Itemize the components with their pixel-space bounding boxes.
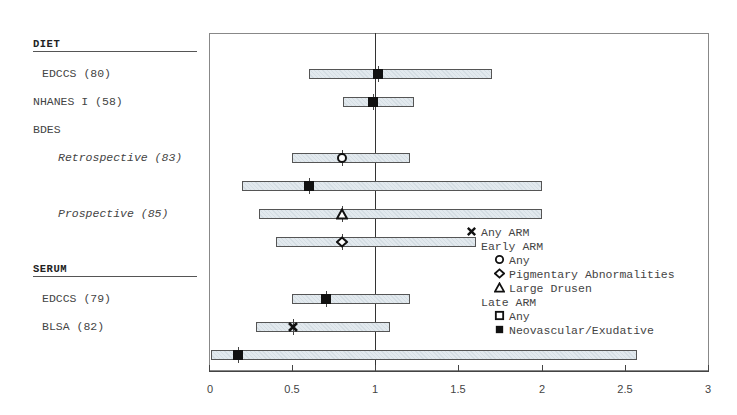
x-tick: [209, 365, 210, 372]
ci-bar-blsa-late: [211, 350, 637, 360]
ci-bar-retro-early: [292, 153, 410, 163]
legend-any-arm: Any ARM: [466, 226, 529, 240]
legend-early-arm-header: Early ARM: [481, 240, 543, 254]
study-label-prospective: Prospective (85): [58, 207, 168, 221]
circle-icon: [494, 254, 505, 265]
filled-square-icon: [232, 349, 244, 361]
triangle-icon: [494, 282, 505, 293]
legend-late-any: Any: [494, 310, 530, 324]
x-icon: [466, 226, 477, 237]
circle-icon: [336, 152, 348, 164]
section-diet-rule: [33, 51, 197, 52]
legend-early-any: Any: [494, 254, 530, 268]
study-label-nhanes: NHANES I (58): [33, 95, 123, 109]
x-tick-label: 3: [705, 383, 711, 395]
ci-bar-edccs-80: [309, 69, 492, 79]
x-tick-label: 2.5: [617, 383, 632, 395]
diamond-icon: [494, 268, 505, 279]
ci-bar-blsa-any: [256, 322, 390, 332]
filled-square-icon: [494, 324, 505, 335]
ci-bar-retro-late: [242, 181, 542, 191]
open-square-icon: [494, 310, 505, 321]
legend-label: Pigmentary Abnormalities: [509, 268, 675, 281]
x-tick-label: 0: [207, 383, 213, 395]
reference-line: [375, 33, 376, 371]
filled-square-icon: [367, 96, 379, 108]
legend-label: Neovascular/Exudative: [509, 324, 654, 337]
x-tick: [708, 365, 709, 372]
x-tick: [375, 365, 376, 372]
filled-square-icon: [372, 68, 384, 80]
x-tick: [542, 365, 543, 372]
x-tick-label: 1: [372, 383, 378, 395]
diamond-icon: [336, 236, 348, 248]
x-icon: [287, 321, 299, 333]
legend-pigmentary: Pigmentary Abnormalities: [494, 268, 675, 282]
x-tick: [625, 365, 626, 372]
legend-neovascular: Neovascular/Exudative: [494, 324, 654, 338]
legend-label: Any ARM: [481, 226, 529, 239]
section-serum-rule: [33, 276, 197, 277]
legend-label: Any: [509, 310, 530, 323]
study-label-bdes: BDES: [33, 123, 61, 137]
ci-bar-prosp-pigment: [276, 237, 476, 247]
x-tick-label: 0.5: [284, 383, 299, 395]
ci-bar-prosp-drusen: [259, 209, 542, 219]
section-diet: DIET: [33, 38, 60, 50]
x-tick: [458, 365, 459, 372]
filled-square-icon: [303, 180, 315, 192]
x-tick: [292, 365, 293, 372]
legend-label: Any: [509, 254, 530, 267]
study-label-retrospective: Retrospective (83): [58, 151, 182, 165]
x-tick-label: 1.5: [450, 383, 465, 395]
study-label-edccs-79: EDCCS (79): [42, 292, 111, 306]
study-label-edccs-80: EDCCS (80): [42, 67, 111, 81]
ci-bar-edccs-79: [292, 294, 410, 304]
x-tick-label: 2: [539, 383, 545, 395]
legend-large-drusen: Large Drusen: [494, 282, 592, 296]
filled-square-icon: [320, 293, 332, 305]
legend-label: Large Drusen: [509, 282, 592, 295]
study-label-blsa: BLSA (82): [42, 320, 104, 334]
section-serum: SERUM: [33, 263, 67, 275]
triangle-icon: [336, 208, 348, 220]
x-axis-line: [209, 371, 709, 372]
legend-late-arm-header: Late ARM: [481, 296, 536, 310]
plot-frame: [209, 33, 709, 371]
